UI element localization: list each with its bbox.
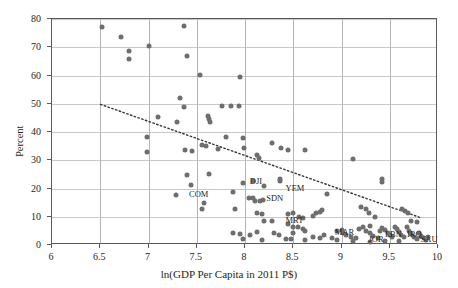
x-tick-label: 8 [229, 251, 259, 262]
data-point [397, 238, 402, 243]
x-tick-mark [99, 244, 100, 248]
data-point [238, 74, 243, 79]
y-tick-label: 70 [17, 41, 41, 52]
data-point [175, 120, 180, 125]
x-tick-mark [196, 244, 197, 248]
x-tick-label: 10 [422, 251, 452, 262]
data-point [406, 210, 411, 215]
data-point [189, 148, 194, 153]
data-point [144, 149, 149, 154]
data-point [229, 103, 234, 108]
x-tick-label: 6 [36, 251, 66, 262]
data-point [302, 238, 307, 243]
data-point [223, 135, 228, 140]
data-point [270, 219, 275, 224]
point-label-dji: DJI [250, 176, 262, 186]
data-point [242, 146, 247, 151]
data-point [380, 180, 385, 185]
data-point [233, 207, 238, 212]
point-label-mrt: MRT [286, 215, 304, 225]
point-label-sau: SAU [421, 234, 438, 244]
data-point [197, 72, 202, 77]
data-point [231, 190, 236, 195]
point-label-sdn: SDN [266, 193, 283, 203]
data-point [366, 211, 371, 216]
data-point [183, 148, 188, 153]
data-point [127, 56, 132, 61]
point-label-com: COM [189, 189, 208, 199]
data-point [368, 223, 373, 228]
data-point [241, 237, 246, 242]
x-tick-mark [244, 244, 245, 248]
data-point [351, 156, 356, 161]
point-label-lbn: LBN [385, 229, 402, 239]
data-point [262, 183, 267, 188]
data-point [188, 183, 193, 188]
x-tick-mark [389, 244, 390, 248]
data-point [100, 25, 105, 30]
data-point [334, 238, 339, 243]
x-axis-title: ln(GDP Per Capita in 2011 P$) [0, 268, 458, 280]
x-tick-label: 9 [326, 251, 356, 262]
plot-area: COMDJIYEMSDNMRTMARJORLBNIRQSAU [51, 18, 437, 244]
data-point [144, 134, 149, 139]
data-point [215, 146, 220, 151]
data-point [254, 230, 259, 235]
y-tick-label: 20 [17, 182, 41, 193]
y-tick-label: 80 [17, 13, 41, 24]
data-point [185, 172, 190, 177]
data-point [247, 233, 252, 238]
data-point [260, 237, 265, 242]
x-tick-label: 8.5 [277, 251, 307, 262]
data-point [231, 231, 236, 236]
data-point [241, 180, 246, 185]
x-tick-label: 6.5 [84, 251, 114, 262]
data-point [119, 35, 124, 40]
data-point [276, 232, 281, 237]
x-tick-mark [148, 244, 149, 248]
data-point [278, 145, 283, 150]
trend-line [52, 19, 436, 243]
data-point [310, 234, 315, 239]
x-tick-label: 7 [133, 251, 163, 262]
x-tick-label: 9.5 [374, 251, 404, 262]
data-point [252, 198, 257, 203]
x-tick-mark [51, 244, 52, 248]
data-point [199, 207, 204, 212]
data-point [289, 237, 294, 242]
scatter-chart: Percent 01020304050607080 66.577.588.599… [0, 0, 458, 288]
data-point [182, 104, 187, 109]
data-point [261, 197, 266, 202]
data-point [207, 172, 212, 177]
y-tick-label: 50 [17, 97, 41, 108]
data-point [156, 115, 161, 120]
data-point [291, 230, 296, 235]
data-point [373, 214, 378, 219]
data-point [302, 148, 307, 153]
data-point [260, 212, 265, 217]
data-point [320, 207, 325, 212]
point-label-yem: YEM [286, 183, 305, 193]
data-point [277, 179, 282, 184]
data-point [254, 210, 259, 215]
data-point [325, 192, 330, 197]
data-point [185, 53, 190, 58]
y-tick-label: 10 [17, 210, 41, 221]
data-point [408, 218, 413, 223]
data-point [302, 229, 307, 234]
point-label-mar: MAR [335, 227, 354, 237]
data-point [182, 24, 187, 29]
data-point [202, 200, 207, 205]
x-tick-mark [341, 244, 342, 248]
y-tick-label: 30 [17, 154, 41, 165]
data-point [257, 155, 262, 160]
data-point [351, 239, 356, 244]
data-point [174, 192, 179, 197]
y-tick-label: 60 [17, 69, 41, 80]
x-tick-label: 7.5 [181, 251, 211, 262]
data-point [283, 236, 288, 241]
x-tick-mark [292, 244, 293, 248]
data-point [219, 103, 224, 108]
data-point [286, 147, 291, 152]
y-tick-label: 40 [17, 126, 41, 137]
